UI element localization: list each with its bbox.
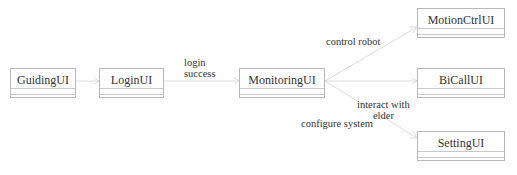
node-attributes [11, 89, 75, 95]
node-label: SettingUI [418, 132, 504, 152]
node-setting-ui[interactable]: SettingUI [417, 131, 505, 161]
edge-label-login-success: login success [184, 57, 216, 79]
node-login-ui[interactable]: LoginUI [99, 68, 164, 98]
node-bicall-ui[interactable]: BiCallUI [417, 68, 505, 98]
node-attributes [240, 89, 324, 95]
node-guiding-ui[interactable]: GuidingUI [10, 68, 76, 98]
node-label: MonitoringUI [240, 69, 324, 89]
node-motionctrl-ui[interactable]: MotionCtrlUI [417, 8, 505, 38]
node-monitoring-ui[interactable]: MonitoringUI [239, 68, 325, 98]
label-line: interact with [357, 99, 410, 110]
node-attributes [418, 89, 504, 95]
node-attributes [418, 152, 504, 158]
label-line: success [184, 68, 216, 79]
edge-label-control-robot: control robot [326, 36, 381, 47]
node-attributes [100, 89, 163, 95]
node-label: BiCallUI [418, 69, 504, 89]
node-label: LoginUI [100, 69, 163, 89]
node-label: GuidingUI [11, 69, 75, 89]
label-line: login [184, 57, 216, 68]
node-attributes [418, 29, 504, 35]
edge-label-configure-system: configure system [301, 118, 373, 129]
node-label: MotionCtrlUI [418, 9, 504, 29]
